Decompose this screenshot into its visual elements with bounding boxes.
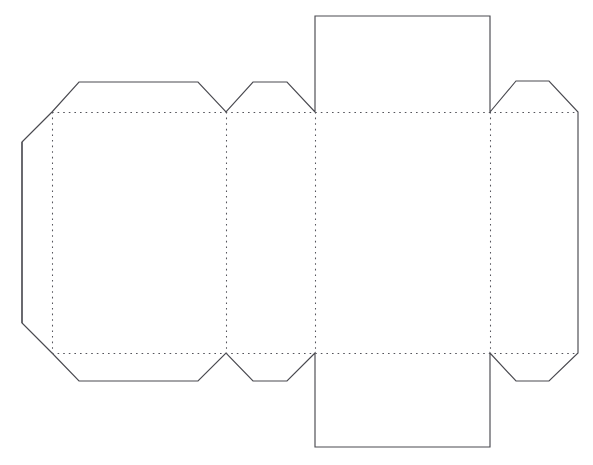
net-fill — [22, 16, 578, 447]
box-template-drawing — [0, 0, 593, 465]
dieline-canvas — [0, 0, 593, 465]
